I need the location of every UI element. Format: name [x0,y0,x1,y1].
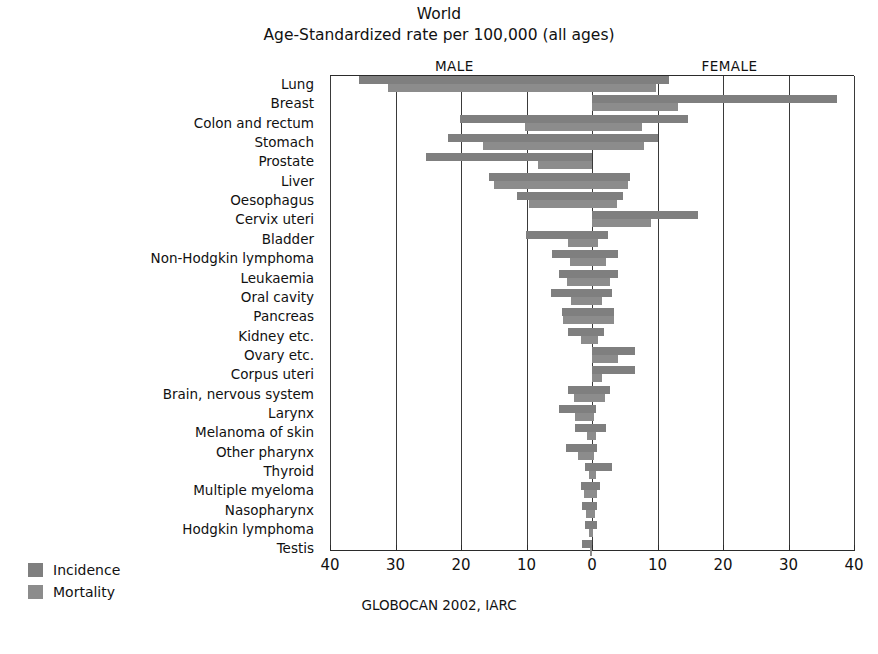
bar-right-incidence [592,270,618,278]
bar-right-mortality [592,316,614,324]
bar-right-incidence [592,211,698,219]
category-label: Breast [0,97,322,111]
bar-right-incidence [592,405,596,413]
bar-right-mortality [592,510,595,518]
bar-right-incidence [592,308,614,316]
bar-left-incidence [552,250,592,258]
bar-left-incidence [460,115,592,123]
chart-title: World [0,4,878,25]
bar-left-mortality [571,297,592,305]
category-label: Larynx [0,407,322,421]
bar-right-mortality [592,200,617,208]
bar-right-incidence [592,347,635,355]
bar-right-mortality [592,374,602,382]
bar-left-incidence [582,502,592,510]
bar-left-incidence [575,424,592,432]
legend-label-incidence: Incidence [53,562,120,578]
category-label: Kidney etc. [0,330,322,344]
x-tick-label: 30 [366,556,426,574]
bar-right-mortality [592,142,644,150]
bar-right-incidence [592,192,623,200]
bar-right-mortality [592,432,596,440]
x-tick-label: 10 [497,556,557,574]
bar-left-mortality [575,413,592,421]
bar-right-mortality [592,239,598,247]
bar-right-mortality [592,413,594,421]
chart-source: GLOBOCAN 2002, IARC [0,597,878,613]
bar-right-mortality [592,471,596,479]
bar-left-incidence [585,463,592,471]
bar-left-mortality [525,123,592,131]
bar-right-mortality [592,258,606,266]
category-label: Oral cavity [0,291,322,305]
category-label: Other pharynx [0,446,322,460]
bar-right-incidence [592,366,635,374]
legend-item-incidence: Incidence [28,560,120,579]
bar-left-mortality [494,181,592,189]
category-label: Liver [0,175,322,189]
bar-left-mortality [574,394,592,402]
panel-header-male: MALE [394,58,514,74]
bar-left-mortality [483,142,592,150]
bar-left-incidence [582,540,592,548]
bar-left-incidence [581,482,592,490]
bar-right-incidence [592,134,658,142]
bar-left-mortality [563,316,592,324]
x-tick-label: 30 [759,556,819,574]
bar-right-incidence [592,386,610,394]
bar-right-mortality [592,297,602,305]
bar-left-incidence [568,328,592,336]
bar-left-mortality [567,278,592,286]
bar-left-mortality [584,490,592,498]
category-label: Oesophagus [0,194,322,208]
bar-right-incidence [592,521,597,529]
category-label: Hodgkin lymphoma [0,523,322,537]
bar-left-incidence [426,153,592,161]
bar-right-incidence [592,328,604,336]
bar-left-incidence [559,270,592,278]
bar-left-incidence [359,76,592,84]
bar-left-mortality [568,239,592,247]
bar-left-incidence [489,173,592,181]
bar-left-mortality [570,258,592,266]
bar-left-incidence [551,289,592,297]
bar-right-incidence [592,95,837,103]
bar-right-incidence [592,173,630,181]
category-label: Lung [0,78,322,92]
bar-right-incidence [592,424,606,432]
bar-left-incidence [585,521,592,529]
bar-right-mortality [592,336,598,344]
x-tick-label: 20 [693,556,753,574]
bar-left-mortality [578,452,592,460]
chart-title-block: World Age-Standardized rate per 100,000 … [0,4,878,46]
bar-left-incidence [559,405,592,413]
bar-left-mortality [388,84,592,92]
category-label: Multiple myeloma [0,484,322,498]
category-label: Corpus uteri [0,368,322,382]
bar-right-mortality [592,219,651,227]
bar-left-incidence [566,444,592,452]
tick-mark [854,545,855,551]
category-label: Testis [0,542,322,556]
bar-left-mortality [538,161,592,169]
bar-right-mortality [592,181,628,189]
category-label: Pancreas [0,310,322,324]
bar-right-mortality [592,355,618,363]
chart-subtitle: Age-Standardized rate per 100,000 (all a… [0,25,878,46]
panel-header-female: FEMALE [670,58,790,74]
bar-left-mortality [581,336,592,344]
category-label: Thyroid [0,465,322,479]
bar-right-mortality [592,84,656,92]
bar-right-incidence [592,231,608,239]
chart-figure: World Age-Standardized rate per 100,000 … [0,0,878,654]
x-tick-label: 40 [824,556,878,574]
category-label: Non-Hodgkin lymphoma [0,252,322,266]
bar-right-incidence [592,482,600,490]
legend-swatch-incidence-icon [28,563,43,577]
bar-right-mortality [592,490,597,498]
category-label: Nasopharynx [0,504,322,518]
bar-right-mortality [592,103,678,111]
bar-left-mortality [529,200,592,208]
x-tick-label: 20 [431,556,491,574]
x-tick-label: 40 [300,556,360,574]
